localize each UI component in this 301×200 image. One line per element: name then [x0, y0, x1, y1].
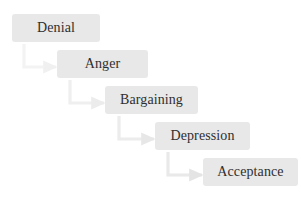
- connector-bargaining-to-depression: [119, 116, 154, 139]
- stage-label: Bargaining: [118, 93, 185, 107]
- stage-node-bargaining[interactable]: Bargaining: [105, 86, 198, 114]
- diagram-canvas: Denial Anger Bargaining Depression Accep…: [0, 0, 301, 200]
- stage-label: Anger: [83, 57, 123, 71]
- stage-label: Denial: [35, 21, 77, 35]
- connector-anger-to-bargaining: [70, 80, 104, 103]
- stage-node-denial[interactable]: Denial: [12, 14, 100, 42]
- stage-label: Acceptance: [215, 165, 285, 179]
- stage-label: Depression: [169, 129, 237, 143]
- connector-denial-to-anger: [24, 44, 56, 67]
- stage-node-anger[interactable]: Anger: [57, 50, 148, 78]
- stage-node-acceptance[interactable]: Acceptance: [203, 158, 298, 186]
- connector-depression-to-acceptance: [168, 152, 202, 175]
- stage-node-depression[interactable]: Depression: [155, 122, 250, 150]
